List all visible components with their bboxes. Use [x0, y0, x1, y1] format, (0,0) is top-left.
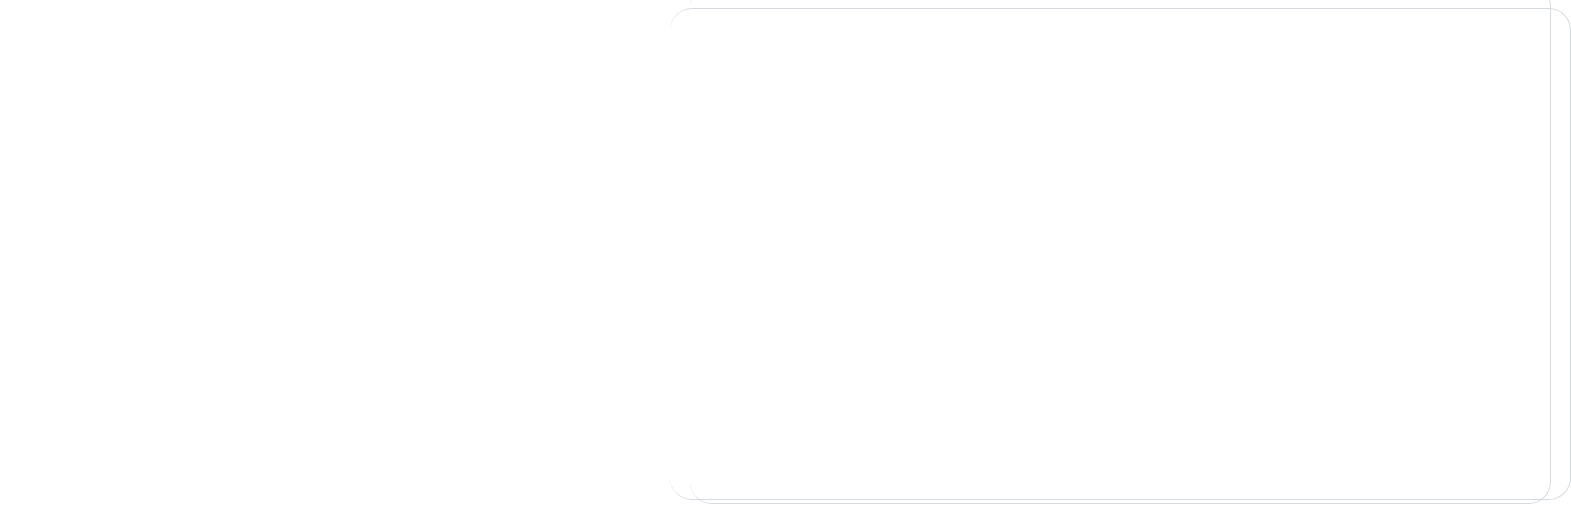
scatterplot-group	[0, 0, 1431, 513]
figure-page	[0, 0, 1431, 513]
